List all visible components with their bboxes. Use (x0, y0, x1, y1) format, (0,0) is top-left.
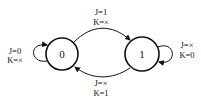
transition-0-to-1-arrow (74, 28, 130, 42)
state-diagram: 0 1 J=0 K=× J=1 K=× J=× K=0 J=× K=1 (0, 0, 201, 104)
transition-0-to-1-label-k: K=× (93, 17, 109, 27)
self-loop-0-arrow (33, 45, 47, 62)
state-0-label: 0 (59, 48, 65, 60)
self-loop-1-label-k: K=0 (179, 50, 194, 60)
state-0: 0 (46, 38, 78, 70)
self-loop-1-arrow (158, 46, 172, 63)
transition-1-to-0-label-k: K=1 (93, 88, 108, 98)
state-1: 1 (125, 37, 159, 71)
transition-1-to-0-label-j: J=× (95, 78, 108, 88)
state-1-label: 1 (139, 48, 145, 60)
transition-1-to-0-arrow (75, 67, 130, 77)
self-loop-1-label-j: J=× (181, 40, 194, 50)
transition-0-to-1-label-j: J=1 (95, 7, 107, 17)
self-loop-0-label-k: K=× (7, 55, 23, 65)
